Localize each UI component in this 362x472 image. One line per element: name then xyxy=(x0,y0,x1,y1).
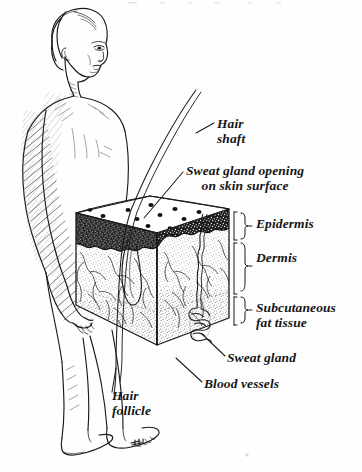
label-sweat-gland: Sweat gland xyxy=(227,350,296,365)
label-sweat-opening-line1: Sweat gland opening xyxy=(186,163,304,178)
page-speck xyxy=(245,453,248,456)
label-subcutaneous-fat-tissue: Subcutaneousfat tissue xyxy=(256,300,336,330)
label-sweat-opening-line2: on skin surface xyxy=(202,178,289,193)
label-subcutaneous-line1: Subcutaneous xyxy=(256,300,336,315)
label-hair-shaft-line1: Hair xyxy=(217,116,244,131)
label-hair-shaft-line2: shaft xyxy=(217,131,245,146)
label-epidermis: Epidermis xyxy=(256,216,314,231)
skin-cross-section-diagram: Hairshaft Sweat gland openingon skin sur… xyxy=(0,0,362,472)
label-subcutaneous-line2: fat tissue xyxy=(256,315,307,330)
label-dermis: Dermis xyxy=(256,250,297,265)
label-sweat-gland-opening: Sweat gland openingon skin surface xyxy=(186,163,304,193)
label-hair-follicle-line1: Hair xyxy=(112,388,139,403)
label-hair-follicle: Hairfollicle xyxy=(112,388,151,418)
diagram-artwork xyxy=(0,0,362,472)
label-hair-follicle-line2: follicle xyxy=(112,403,151,418)
label-hair-shaft: Hairshaft xyxy=(217,116,245,146)
label-blood-vessels: Blood vessels xyxy=(204,376,279,391)
